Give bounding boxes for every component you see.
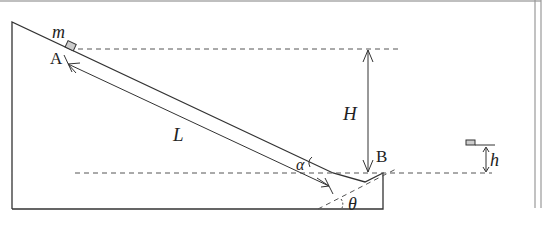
small-block (466, 140, 475, 145)
point-a-label: A (50, 49, 63, 68)
height-H-label: H (342, 103, 358, 124)
theta-arc (341, 199, 343, 208)
ramp-block (12, 22, 383, 209)
length-label: L (172, 124, 184, 145)
height-h-label: h (490, 150, 499, 170)
angle-theta-label: θ (348, 194, 357, 214)
point-b-label: B (376, 147, 387, 166)
mass-label: m (52, 22, 65, 42)
physics-diagram: m A L H B h α θ (0, 0, 551, 237)
angle-alpha-label: α (296, 156, 305, 173)
mass-block (65, 41, 76, 51)
height-H-arrow (363, 50, 373, 172)
